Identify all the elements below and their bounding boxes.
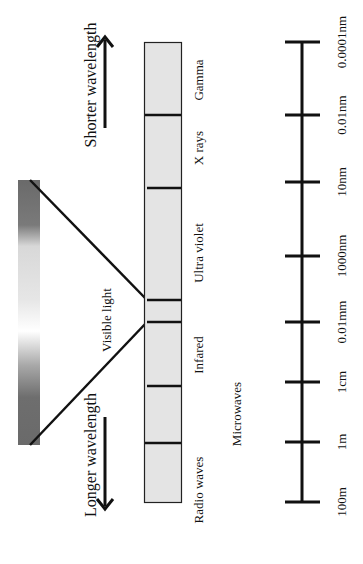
wavelength-scale (285, 42, 320, 502)
spectrum-diagram-graphics (0, 0, 363, 564)
shorter-wavelength-label: Shorter wavelength (83, 23, 99, 148)
scale-tick-label: 10nm (335, 167, 348, 197)
band-label-radio: Radio waves (192, 457, 205, 524)
longer-wavelength-arrow-icon (97, 417, 113, 509)
band-label-infrared: Infared (192, 336, 205, 374)
shorter-wavelength-arrow-icon (97, 37, 113, 128)
spectrum-bar (145, 43, 182, 503)
scale-tick-label: 0.01nm (335, 95, 348, 134)
scale-tick-label: 1000nm (335, 235, 348, 278)
visible-gradient-strip (18, 180, 40, 445)
scale-tick-label: 0.0001nm (335, 16, 348, 68)
scale-tick-label: 100m (335, 487, 348, 517)
scale-tick-label: 0.01mm (335, 301, 348, 344)
scale-tick-label: 1m (335, 434, 348, 451)
longer-wavelength-label: Longer wavelength (83, 393, 99, 517)
band-label-gamma: Gamma (192, 59, 205, 100)
scale-tick-label: 1cm (335, 371, 348, 393)
visible-light-label: Visible light (100, 288, 113, 352)
band-label-uv: Ultra violet (192, 223, 205, 283)
band-label-microwaves: Microwaves (230, 382, 243, 446)
band-label-xrays: X rays (192, 131, 205, 165)
visible-fan-line-top (30, 180, 147, 300)
